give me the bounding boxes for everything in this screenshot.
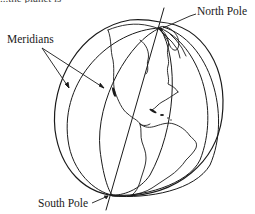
baja-california [111, 87, 116, 97]
caribbean-islands [149, 108, 172, 121]
globe-outline [54, 20, 222, 196]
meridians-label: Meridians [7, 34, 54, 46]
meridians-arrows [42, 48, 104, 88]
meridian-lines [67, 27, 218, 197]
south-pole-label: South Pole [38, 198, 88, 210]
north-pole-marker [159, 27, 162, 30]
south-pole-leader [92, 196, 108, 203]
polar-axis [106, 8, 164, 210]
north-pole-label: North Pole [197, 6, 247, 18]
